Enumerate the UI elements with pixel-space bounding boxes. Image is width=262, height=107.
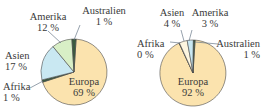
label-name: Europa (173, 76, 213, 87)
right-label-australien: Australien 1 % (210, 38, 260, 60)
right-label-afrika: Afrika 0 % (137, 38, 164, 60)
label-value: 69 % (64, 87, 104, 98)
label-name: Europa (64, 76, 104, 87)
label-name: Amerika (190, 7, 230, 18)
right-label-europa: Europa 92 % (173, 76, 213, 98)
left-label-australien: Australien 1 % (79, 5, 129, 27)
label-value: 1 % (3, 92, 30, 103)
label-value: 4 % (157, 18, 187, 29)
right-label-asien: Asien 4 % (157, 7, 187, 29)
label-name: Australien (210, 38, 260, 49)
label-value: 17 % (5, 61, 30, 72)
label-name: Asien (157, 7, 187, 18)
label-name: Afrika (3, 81, 30, 92)
label-value: 92 % (173, 87, 213, 98)
left-label-amerika: Amerika 12 % (26, 11, 70, 33)
label-name: Asien (5, 50, 30, 61)
left-label-asien: Asien 17 % (5, 50, 30, 72)
label-name: Amerika (26, 11, 70, 22)
label-value: 1 % (79, 16, 129, 27)
label-value: 0 % (137, 49, 164, 60)
right-label-amerika: Amerika 3 % (190, 7, 230, 29)
label-value: 12 % (26, 22, 70, 33)
label-name: Afrika (137, 38, 164, 49)
label-name: Australien (79, 5, 129, 16)
label-value: 3 % (190, 18, 230, 29)
left-label-europa: Europa 69 % (64, 76, 104, 98)
left-label-afrika: Afrika 1 % (3, 81, 30, 103)
label-value: 1 % (210, 49, 260, 60)
